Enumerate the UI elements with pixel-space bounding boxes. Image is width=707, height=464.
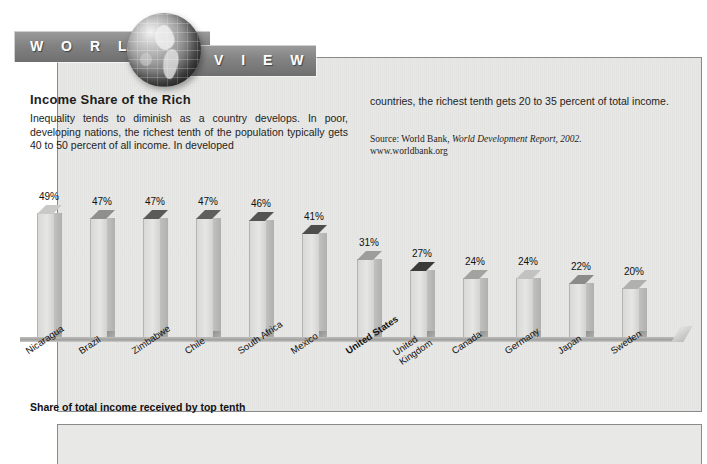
banner-title-view: V I E W bbox=[214, 45, 310, 75]
bar-value-label: 22% bbox=[571, 261, 591, 272]
bar-side-face bbox=[159, 218, 168, 331]
source-publication: World Development Report, 2002. bbox=[452, 134, 582, 144]
bar-value-label: 31% bbox=[359, 237, 379, 248]
bar-side-face bbox=[212, 218, 221, 331]
bar-front-face bbox=[569, 283, 586, 340]
bar-value-label: 20% bbox=[624, 266, 644, 277]
bar-zimbabwe bbox=[143, 218, 168, 340]
next-panel-preview bbox=[57, 424, 702, 464]
page-title: Income Share of the Rich bbox=[30, 92, 350, 107]
intro-paragraph-left: Inequality tends to diminish as a countr… bbox=[30, 112, 348, 153]
bar-side-face bbox=[479, 278, 488, 331]
source-note: Source: World Bank, World Development Re… bbox=[370, 133, 688, 157]
bar-value-label: 27% bbox=[412, 248, 432, 259]
bar-value-label: 47% bbox=[92, 196, 112, 207]
world-view-banner: W O R L D V I E W bbox=[0, 0, 707, 90]
bar-side-face bbox=[53, 213, 62, 331]
globe-icon bbox=[127, 13, 201, 87]
bar-side-face bbox=[585, 283, 594, 331]
bar-value-label: 24% bbox=[518, 256, 538, 267]
bar-front-face bbox=[302, 233, 319, 340]
source-url: www.worldbank.org bbox=[370, 145, 688, 157]
bar-side-face bbox=[265, 220, 274, 331]
bar-front-face bbox=[196, 218, 213, 340]
bar-side-face bbox=[638, 288, 647, 331]
bar-front-face bbox=[37, 213, 54, 340]
bar-mexico bbox=[302, 233, 327, 340]
bar-value-label: 47% bbox=[145, 196, 165, 207]
bar-side-face bbox=[373, 259, 382, 331]
bar-value-label: 41% bbox=[304, 211, 324, 222]
bar-value-label: 49% bbox=[39, 191, 59, 202]
bar-brazil bbox=[90, 218, 115, 340]
bar-japan bbox=[569, 283, 594, 340]
bar-value-label: 46% bbox=[251, 198, 271, 209]
bar-front-face bbox=[249, 220, 266, 340]
intro-paragraph-right: countries, the richest tenth gets 20 to … bbox=[370, 95, 682, 109]
bar-front-face bbox=[90, 218, 107, 340]
income-share-bar-chart: 49%47%47%47%46%41%31%27%24%24%22%20% bbox=[20, 175, 680, 340]
bar-value-label: 24% bbox=[465, 256, 485, 267]
bar-side-face bbox=[318, 233, 327, 331]
chart-caption: Share of total income received by top te… bbox=[30, 401, 245, 413]
bar-chile bbox=[196, 218, 221, 340]
bar-nicaragua bbox=[37, 213, 62, 340]
bar-value-label: 47% bbox=[198, 196, 218, 207]
globe-graticule bbox=[127, 13, 201, 87]
source-prefix: Source: World Bank, bbox=[370, 134, 452, 144]
bar-side-face bbox=[532, 278, 541, 331]
bar-side-face bbox=[106, 218, 115, 331]
bar-front-face bbox=[143, 218, 160, 340]
